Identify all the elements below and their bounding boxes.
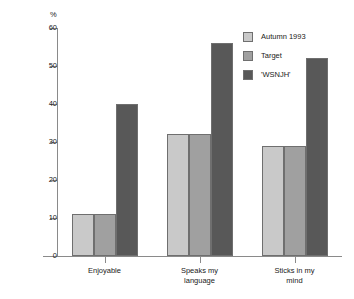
chart-legend: Autumn 1993Target'WSNJH' — [243, 27, 306, 84]
y-tick-label: 10 — [21, 214, 57, 222]
legend-label: 'WSNJH' — [261, 71, 291, 79]
bar — [284, 146, 306, 256]
legend-swatch-icon — [243, 51, 253, 61]
x-tick-mark — [200, 257, 201, 263]
legend-item: Autumn 1993 — [243, 27, 306, 46]
y-tick-label: 40 — [21, 100, 57, 108]
bar — [262, 146, 284, 256]
y-tick-label: 50 — [21, 62, 57, 70]
bar — [167, 134, 189, 256]
legend-item: Target — [243, 46, 306, 65]
x-axis-line — [43, 256, 342, 257]
bar-group — [72, 28, 138, 256]
bar — [189, 134, 211, 256]
bar-group — [167, 28, 233, 256]
y-axis-unit-label: % — [50, 11, 57, 19]
legend-label: Target — [261, 52, 282, 60]
y-tick-label: 0 — [21, 252, 57, 260]
x-tick-mark — [295, 257, 296, 263]
legend-label: Autumn 1993 — [261, 33, 306, 41]
bar — [306, 58, 328, 256]
legend-swatch-icon — [243, 70, 253, 80]
y-tick-label: 60 — [21, 24, 57, 32]
bar — [211, 43, 233, 256]
x-tick-label: Speaks mylanguage — [150, 266, 250, 286]
y-tick-label: 30 — [21, 138, 57, 146]
bar-chart: % 0102030405060 EnjoyableSpeaks mylangua… — [0, 0, 354, 299]
bar — [72, 214, 94, 256]
y-tick-label: 20 — [21, 176, 57, 184]
bar — [116, 104, 138, 256]
legend-swatch-icon — [243, 32, 253, 42]
x-tick-label: Enjoyable — [55, 266, 155, 276]
legend-item: 'WSNJH' — [243, 65, 306, 84]
bar — [94, 214, 116, 256]
x-tick-label: Sticks in mymind — [245, 266, 345, 286]
x-tick-mark — [105, 257, 106, 263]
